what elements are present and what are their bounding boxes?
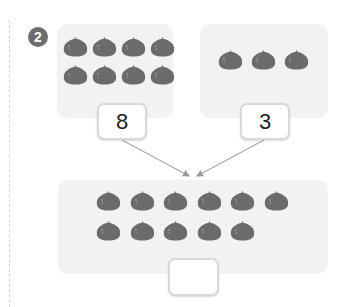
fruit-icon — [121, 65, 146, 85]
fruit-icon — [251, 50, 276, 70]
fruit-icon — [150, 65, 175, 85]
fruit-icon — [163, 191, 188, 211]
fruit-icon — [284, 50, 309, 70]
fruit-icon — [130, 191, 155, 211]
fruit-icon — [150, 37, 175, 57]
fruit-icon — [264, 191, 289, 211]
fruit-icon — [92, 37, 117, 57]
fruit-icon — [63, 37, 88, 57]
fruit-icon — [130, 221, 155, 241]
fruit-icon — [163, 221, 188, 241]
fruit-icon — [218, 50, 243, 70]
fruit-icon — [230, 221, 255, 241]
fruit-icon — [121, 37, 146, 57]
fruit-icon — [197, 191, 222, 211]
fruit-icon — [96, 191, 121, 211]
fruit-icon — [230, 191, 255, 211]
fruit-icon — [96, 221, 121, 241]
fruit-icon — [197, 221, 222, 241]
fruit-icon — [92, 65, 117, 85]
fruit-icon — [63, 65, 88, 85]
